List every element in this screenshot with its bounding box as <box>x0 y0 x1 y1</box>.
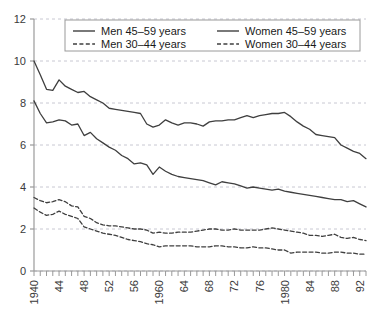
x-axis-tick-labels: 1940444852561960646872761980848892 <box>28 280 366 304</box>
legend-label-2: Men 30–44 years <box>101 38 186 50</box>
y-axis-tick-labels: 024681012 <box>14 13 26 277</box>
gridlines <box>34 19 366 271</box>
x-tick-label-1960: 1960 <box>153 280 165 304</box>
x-tick-label-56: 56 <box>128 280 140 292</box>
x-tick-label-1980: 1980 <box>279 280 291 304</box>
y-tick-label-10: 10 <box>14 55 26 67</box>
series-line-2 <box>34 198 366 241</box>
y-tick-label-0: 0 <box>20 265 26 277</box>
x-tick-label-76: 76 <box>254 280 266 292</box>
legend-label-0: Men 45–59 years <box>101 25 186 37</box>
x-tick-label-1940: 1940 <box>28 280 40 304</box>
data-series-layer <box>34 61 366 254</box>
y-tick-label-6: 6 <box>20 139 26 151</box>
x-tick-label-88: 88 <box>329 280 341 292</box>
x-tick-label-64: 64 <box>178 280 190 292</box>
x-tick-label-92: 92 <box>354 280 366 292</box>
series-line-1 <box>34 61 366 159</box>
x-tick-label-72: 72 <box>228 280 240 292</box>
legend-label-3: Women 30–44 years <box>245 38 347 50</box>
y-tick-label-8: 8 <box>20 97 26 109</box>
axis-ticks <box>30 19 366 276</box>
x-tick-label-44: 44 <box>53 280 65 292</box>
y-tick-label-4: 4 <box>20 181 26 193</box>
y-tick-label-12: 12 <box>14 13 26 25</box>
x-tick-label-68: 68 <box>203 280 215 292</box>
chart-legend: Men 45–59 yearsWomen 45–59 yearsMen 30–4… <box>65 20 360 51</box>
line-chart: 024681012 194044485256196064687276198084… <box>0 0 374 318</box>
series-line-0 <box>34 101 366 207</box>
x-tick-label-52: 52 <box>103 280 115 292</box>
chart-canvas: 024681012 194044485256196064687276198084… <box>0 0 374 318</box>
legend-label-1: Women 45–59 years <box>245 25 347 37</box>
y-tick-label-2: 2 <box>20 223 26 235</box>
series-line-3 <box>34 208 366 254</box>
x-tick-label-48: 48 <box>78 280 90 292</box>
x-tick-label-84: 84 <box>304 280 316 292</box>
